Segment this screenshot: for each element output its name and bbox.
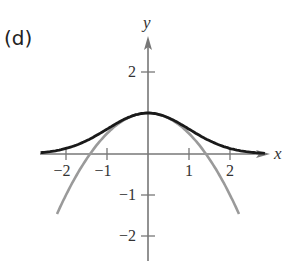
x-tick-label: 1 — [185, 162, 193, 179]
y-tick-label: 2 — [128, 63, 136, 80]
x-tick-label: 2 — [226, 162, 234, 179]
y-tick-label: −1 — [119, 186, 136, 203]
x-axis-label: x — [273, 144, 282, 163]
y-axis-label: y — [141, 13, 151, 32]
graph-panel: (d) xy−2−1122−1−2 — [0, 0, 288, 276]
x-tick-label: −2 — [53, 162, 70, 179]
y-tick-label: −2 — [119, 227, 136, 244]
function-curve — [41, 113, 265, 153]
x-tick-label: −1 — [94, 162, 111, 179]
plot-area: xy−2−1122−1−2 — [0, 0, 288, 276]
